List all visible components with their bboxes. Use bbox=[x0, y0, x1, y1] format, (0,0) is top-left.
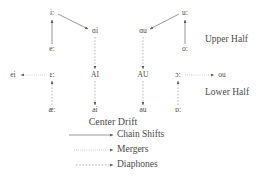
legend-title-center-drift: Center Drift bbox=[89, 117, 138, 127]
node-open-o: ɔː bbox=[175, 71, 180, 79]
legend-label-diaphones: Diaphones bbox=[117, 160, 158, 170]
node-ae-low: æː bbox=[48, 106, 55, 114]
node-AU: AU bbox=[138, 71, 149, 79]
legend-label-mergers: Mergers bbox=[117, 145, 148, 155]
node-ei: ei bbox=[10, 71, 15, 79]
node-au-ipa: ɑu bbox=[139, 27, 147, 35]
arrow-chain-u-to-au bbox=[150, 14, 179, 29]
node-ai-low: ai bbox=[92, 106, 97, 114]
node-AI: AI bbox=[91, 71, 99, 79]
node-o-long: oː bbox=[182, 45, 188, 53]
arrow-chain-i-to-ai bbox=[58, 14, 88, 29]
node-ou: ou bbox=[218, 71, 226, 79]
node-a-long: ɒː bbox=[175, 106, 181, 114]
node-i-long: iː bbox=[50, 9, 54, 17]
node-u-long: uː bbox=[182, 9, 188, 17]
node-e-long: eː bbox=[49, 45, 54, 53]
node-ee-long: ɛː bbox=[49, 71, 54, 79]
node-au-low: au bbox=[139, 106, 146, 114]
label-lower-half: Lower Half bbox=[205, 88, 249, 98]
node-ai-ipa: ɑi bbox=[92, 27, 98, 35]
label-upper-half: Upper Half bbox=[205, 35, 248, 45]
vowel-chain-shift-diagram: iː eː ɑi AI ai ɑu AU au uː oː ɔː ɒː ou e… bbox=[0, 0, 266, 176]
legend-label-chain-shifts: Chain Shifts bbox=[117, 130, 164, 140]
